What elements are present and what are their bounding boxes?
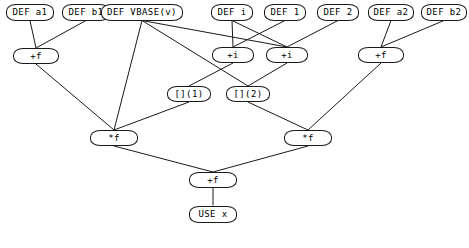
graph-node-plus_f_b[interactable]: +f — [189, 172, 237, 188]
graph-node-def_2[interactable]: DEF 2 — [317, 4, 359, 21]
graph-edge-plus_i_2-to-idx_2 — [248, 63, 287, 86]
graph-node-def_a2[interactable]: DEF a2 — [368, 4, 414, 21]
graph-edge-def_i-to-plus_i_1 — [232, 21, 233, 48]
graph-node-plus_i_1[interactable]: +i — [212, 47, 254, 63]
graph-edge-def_vbase-to-plus_i_2 — [142, 21, 287, 48]
graph-node-plus_i_2[interactable]: +i — [266, 47, 308, 63]
graph-node-mul_f_r[interactable]: *f — [284, 130, 332, 146]
graph-edge-mul_f_l-to-plus_f_b — [114, 146, 213, 172]
graph-edge-def_1-to-plus_i_1 — [233, 21, 285, 48]
graph-node-mul_f_l[interactable]: *f — [90, 130, 138, 146]
graph-edge-def_vbase-to-mul_f_l — [114, 21, 142, 131]
graph-node-def_vbase[interactable]: DEF VBASE(v) — [101, 4, 183, 21]
graph-node-idx_2[interactable]: [](2) — [226, 86, 270, 102]
graph-edge-def_b2-to-plus_f_r — [381, 21, 444, 48]
graph-edge-plus_f_r-to-mul_f_r — [308, 63, 381, 130]
graph-node-def_a1[interactable]: DEF a1 — [6, 4, 54, 21]
graph-node-idx_1[interactable]: [](1) — [167, 86, 211, 102]
graph-edge-idx_2-to-mul_f_r — [248, 102, 308, 130]
graph-edge-mul_f_r-to-plus_f_b — [213, 146, 308, 172]
graph-edge-def_a1-to-plus_f_l — [30, 21, 36, 49]
graph-edge-idx_1-to-mul_f_l — [114, 102, 189, 130]
graph-edge-def_2-to-plus_i_2 — [287, 21, 338, 48]
graph-node-use_x[interactable]: USE x — [189, 206, 237, 223]
graph-node-def_1[interactable]: DEF 1 — [264, 4, 306, 21]
graph-node-plus_f_r[interactable]: +f — [358, 47, 404, 63]
graph-edge-def_b1-to-plus_f_l — [36, 21, 86, 49]
graph-node-def_i[interactable]: DEF i — [211, 4, 253, 21]
graph-edge-def_a2-to-plus_f_r — [381, 21, 391, 48]
graph-edge-plus_f_l-to-mul_f_l — [36, 64, 114, 130]
graph-node-plus_f_l[interactable]: +f — [13, 48, 59, 64]
graph-node-def_b2[interactable]: DEF b2 — [421, 4, 467, 21]
diagram-canvas: DEF a1DEF b1DEF VBASE(v)DEF iDEF 1DEF 2D… — [0, 0, 469, 248]
graph-edge-plus_i_1-to-idx_1 — [189, 63, 233, 86]
graph-edge-def_i-to-plus_i_2 — [232, 21, 287, 48]
